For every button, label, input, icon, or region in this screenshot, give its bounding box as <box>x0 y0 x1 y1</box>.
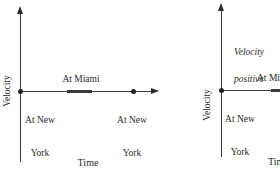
right-y-axis-label: Velocity <box>201 77 213 133</box>
right-annotation-line1: Velocity <box>234 46 264 60</box>
right-x-axis-label: Time <box>268 156 280 167</box>
left-end-label-line1: At New <box>111 115 153 126</box>
right-origin-label-line1: At New <box>220 114 260 125</box>
left-miami-label: At Miami <box>53 74 109 85</box>
right-origin-label-line2: York <box>220 147 260 158</box>
right-origin-label: At New York <box>220 92 260 173</box>
left-miami-segment <box>67 90 92 93</box>
left-y-axis-label: Velocity <box>1 63 13 119</box>
left-x-axis-label: Time <box>63 157 113 168</box>
left-start-label-line2: York <box>19 148 61 159</box>
left-end-label: At New York <box>111 93 153 173</box>
velocity-time-figure: Velocity At Miami At New York At New Yor… <box>0 0 280 173</box>
right-y-axis-arrow-icon <box>218 3 224 11</box>
left-y-axis-arrow-icon <box>17 6 23 14</box>
left-start-label-line1: At New <box>19 115 61 126</box>
right-miami-segment <box>271 89 280 92</box>
left-end-label-line2: York <box>111 148 153 159</box>
left-start-label: At New York <box>19 93 61 173</box>
right-miami-label: At Miami <box>257 73 280 84</box>
